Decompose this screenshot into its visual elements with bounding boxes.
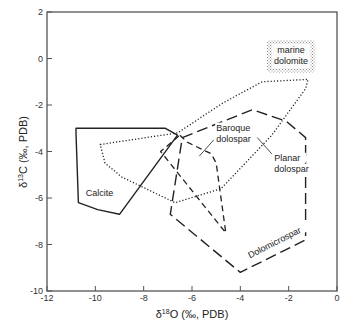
- annotation-text: Planar: [274, 153, 300, 163]
- x-axis-label: δ18O (‰, PDB): [156, 308, 229, 320]
- annotation-text: Baroque: [216, 123, 250, 133]
- isotope-crossplot: -12-10-8-6-4-2020-2-4-6-8-10 CalciteBaro…: [0, 0, 353, 332]
- x-tick-label: -6: [188, 293, 196, 303]
- x-tick-label: -4: [236, 293, 244, 303]
- field-baroque-dolospar: [161, 135, 226, 233]
- annotation-text: Calcite: [86, 188, 114, 198]
- x-tick-label: -2: [285, 293, 293, 303]
- y-axis-label: δ13C (‰, PDB): [17, 116, 29, 188]
- planar-leader-line: [257, 138, 272, 154]
- x-tick-label: -10: [89, 293, 102, 303]
- marine-dolomite-label: dolomite: [274, 56, 308, 66]
- annotation-calcite: Calcite: [85, 188, 123, 198]
- y-tick-label: 2: [38, 7, 43, 17]
- annotation-dolomicrospar: Dolomicrospar: [245, 220, 312, 261]
- marine-dolomite-label: marine: [277, 45, 305, 55]
- y-tick-label: -10: [30, 286, 43, 296]
- annotation-text: dolospar: [216, 134, 251, 144]
- annotation-text: dolospar: [274, 164, 309, 174]
- annotation-baroque-dolospar: Baroquedolospar: [215, 123, 259, 144]
- y-tick-label: -6: [35, 193, 43, 203]
- field-planar-dolospar: [100, 79, 308, 202]
- y-tick-label: -2: [35, 100, 43, 110]
- y-tick-label: -4: [35, 147, 43, 157]
- field-calcite: [76, 128, 178, 214]
- y-tick-label: 0: [38, 54, 43, 64]
- annotation-planar-dolospar: Planardolospar: [273, 153, 317, 174]
- x-tick-label: -8: [140, 293, 148, 303]
- baroque-leader-line: [199, 140, 214, 156]
- x-tick-label: 0: [334, 293, 339, 303]
- y-tick-label: -8: [35, 240, 43, 250]
